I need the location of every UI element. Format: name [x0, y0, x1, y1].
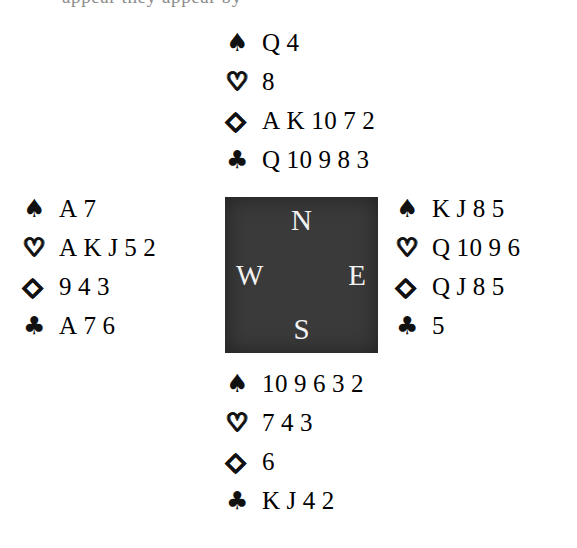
- card-rank: Q: [262, 146, 281, 173]
- card-rank: 4: [303, 487, 316, 514]
- club-suit-symbol: ♣: [226, 488, 256, 513]
- compass-label-west: W: [236, 261, 263, 290]
- card-rank: 3: [332, 370, 345, 397]
- card-rank: 6: [508, 234, 521, 261]
- spade-suit-symbol: ♠: [226, 371, 256, 396]
- card-rank: 4: [287, 29, 300, 56]
- hand-west-spades-cards: A7: [53, 196, 97, 221]
- card-rank: J: [457, 195, 467, 222]
- hand-east-spades-line: ♠ KJ85: [396, 196, 521, 235]
- hand-south: ♠ 109632 ♡ 743 ◇ 6 ♣ KJ42: [226, 371, 364, 527]
- card-rank: 10: [311, 107, 337, 134]
- card-rank: K: [262, 487, 281, 514]
- heart-suit-symbol: ♡: [23, 235, 53, 260]
- hand-south-spades-line: ♠ 109632: [226, 371, 364, 410]
- diamond-suit-symbol: ◇: [226, 449, 256, 474]
- card-rank: 5: [492, 195, 505, 222]
- card-rank: 7: [84, 195, 97, 222]
- hand-west-diamonds-cards: 943: [53, 274, 110, 299]
- hand-north-diamonds-cards: AK1072: [256, 108, 375, 133]
- heart-suit-symbol: ♡: [226, 69, 256, 94]
- card-rank: 6: [313, 370, 326, 397]
- card-rank: 3: [357, 146, 370, 173]
- heart-suit-symbol: ♡: [396, 235, 426, 260]
- card-rank: 8: [262, 68, 275, 95]
- hand-north-spades-line: ♠ Q4: [226, 30, 375, 69]
- hand-east-clubs-cards: 5: [426, 313, 445, 338]
- card-rank: K: [84, 234, 103, 261]
- hand-east-hearts-line: ♡ Q1096: [396, 235, 521, 274]
- hand-south-spades-cards: 109632: [256, 371, 364, 396]
- card-rank: 5: [492, 273, 505, 300]
- card-rank: 9: [294, 370, 307, 397]
- cut-off-text: appear they appear by: [62, 0, 242, 8]
- hand-north-diamonds-line: ◇ AK1072: [226, 108, 375, 147]
- spade-suit-symbol: ♠: [226, 30, 256, 55]
- hand-east-spades-cards: KJ85: [426, 196, 505, 221]
- hand-west-hearts-line: ♡ AKJ52: [23, 235, 156, 274]
- hand-east: ♠ KJ85 ♡ Q1096 ◇ QJ85 ♣ 5: [396, 196, 521, 352]
- card-rank: 2: [351, 370, 364, 397]
- card-rank: Q: [262, 29, 281, 56]
- card-rank: 8: [473, 195, 486, 222]
- club-suit-symbol: ♣: [396, 313, 426, 338]
- hand-east-clubs-line: ♣ 5: [396, 313, 521, 352]
- card-rank: 6: [103, 312, 116, 339]
- card-rank: 7: [84, 312, 97, 339]
- card-rank: 2: [322, 487, 335, 514]
- diamond-suit-symbol: ◇: [23, 274, 53, 299]
- card-rank: A: [262, 107, 281, 134]
- card-rank: 8: [473, 273, 486, 300]
- card-rank: 5: [124, 234, 137, 261]
- cut-off-text-sliver: appear they appear by: [0, 0, 577, 9]
- club-suit-symbol: ♣: [226, 147, 256, 172]
- hand-west-spades-line: ♠ A7: [23, 196, 156, 235]
- card-rank: 2: [362, 107, 375, 134]
- hand-south-hearts-line: ♡ 743: [226, 410, 364, 449]
- card-rank: 6: [262, 448, 275, 475]
- hand-south-diamonds-line: ◇ 6: [226, 449, 364, 488]
- card-rank: 7: [343, 107, 356, 134]
- spade-suit-symbol: ♠: [396, 196, 426, 221]
- card-rank: Q: [432, 273, 451, 300]
- hand-south-clubs-line: ♣ KJ42: [226, 488, 364, 527]
- compass-label-north: N: [291, 206, 312, 235]
- card-rank: K: [287, 107, 306, 134]
- card-rank: 4: [281, 409, 294, 436]
- card-rank: 9: [59, 273, 72, 300]
- diamond-suit-symbol: ◇: [226, 108, 256, 133]
- compass-label-east: E: [348, 261, 366, 290]
- card-rank: 7: [262, 409, 275, 436]
- hand-north-spades-cards: Q4: [256, 30, 300, 55]
- heart-suit-symbol: ♡: [226, 410, 256, 435]
- hand-west-clubs-line: ♣ A76: [23, 313, 156, 352]
- hand-south-diamonds-cards: 6: [256, 449, 275, 474]
- card-rank: 9: [319, 146, 332, 173]
- hand-east-diamonds-cards: QJ85: [426, 274, 505, 299]
- spade-suit-symbol: ♠: [23, 196, 53, 221]
- card-rank: 10: [287, 146, 313, 173]
- card-rank: K: [432, 195, 451, 222]
- hand-west: ♠ A7 ♡ AKJ52 ◇ 943 ♣ A76: [23, 196, 156, 352]
- hand-west-hearts-cards: AKJ52: [53, 235, 156, 260]
- hand-north-hearts-line: ♡ 8: [226, 69, 375, 108]
- card-rank: A: [59, 234, 78, 261]
- hand-north-clubs-line: ♣ Q10983: [226, 147, 375, 186]
- hand-south-clubs-cards: KJ42: [256, 488, 335, 513]
- card-rank: J: [457, 273, 467, 300]
- card-rank: 3: [300, 409, 313, 436]
- hand-east-hearts-cards: Q1096: [426, 235, 521, 260]
- hand-east-diamonds-line: ◇ QJ85: [396, 274, 521, 313]
- hand-west-clubs-cards: A76: [53, 313, 116, 338]
- diamond-suit-symbol: ◇: [396, 274, 426, 299]
- card-rank: Q: [432, 234, 451, 261]
- hand-south-hearts-cards: 743: [256, 410, 313, 435]
- hand-west-diamonds-line: ◇ 943: [23, 274, 156, 313]
- hand-north: ♠ Q4 ♡ 8 ◇ AK1072 ♣ Q10983: [226, 30, 375, 186]
- hand-north-hearts-cards: 8: [256, 69, 275, 94]
- card-rank: 5: [432, 312, 445, 339]
- card-rank: J: [108, 234, 118, 261]
- card-rank: 3: [97, 273, 110, 300]
- card-rank: 10: [457, 234, 483, 261]
- card-rank: 2: [143, 234, 156, 261]
